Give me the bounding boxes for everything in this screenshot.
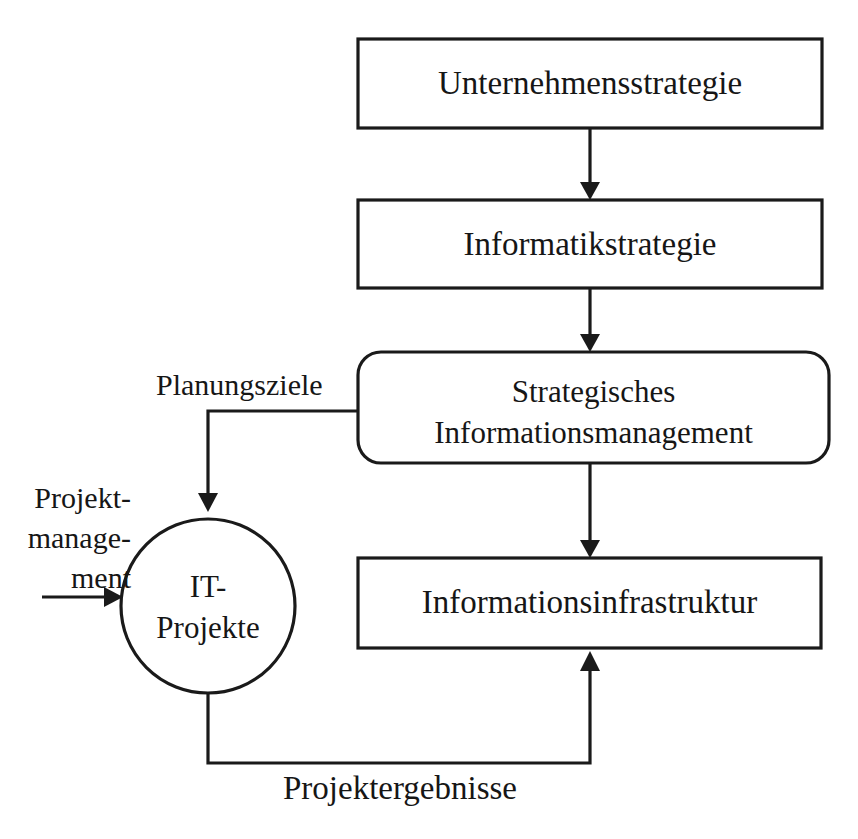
edge-sim-to-it-projekte	[198, 411, 358, 512]
node-label-unternehmensstrategie: Unternehmensstrategie	[358, 67, 822, 100]
node-label-it-projekte: IT- Projekte	[121, 566, 295, 648]
label-text-line2: Projekte	[121, 607, 295, 648]
label-text-line1: Strategisches	[358, 371, 829, 412]
diagram-canvas: Unternehmensstrategie Informatikstrategi…	[0, 0, 858, 839]
label-text-line1: IT-	[121, 566, 295, 607]
node-label-informationsinfrastruktur: Informationsinfrastruktur	[358, 586, 821, 619]
edge-sim-to-informationsinfrastruktur	[580, 463, 600, 558]
edge-label-projektmanagement: Projekt- manage- ment	[0, 478, 131, 598]
label-text-line2: Informationsmanagement	[358, 412, 829, 453]
label-text-line3: ment	[0, 558, 131, 598]
label-text-line1: Projekt-	[0, 478, 131, 518]
edge-label-projektergebnisse: Projektergebnisse	[0, 772, 800, 805]
label-text: Unternehmensstrategie	[438, 65, 742, 101]
label-text: Planungsziele	[156, 368, 323, 401]
node-label-strategisches-informationsmanagement: Strategisches Informationsmanagement	[358, 371, 829, 453]
label-text-line2: manage-	[0, 518, 131, 558]
label-text: Projektergebnisse	[283, 770, 517, 806]
edge-label-planungsziele: Planungsziele	[156, 370, 323, 400]
label-text: Informatikstrategie	[464, 226, 717, 262]
edge-unternehmensstrategie-to-informatikstrategie	[580, 128, 600, 200]
node-label-informatikstrategie: Informatikstrategie	[358, 228, 822, 261]
edge-informatikstrategie-to-sim	[580, 288, 600, 352]
label-text: Informationsinfrastruktur	[422, 584, 757, 620]
